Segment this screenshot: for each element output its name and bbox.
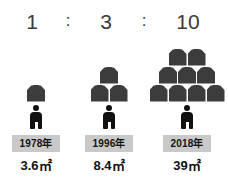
person-leg-left xyxy=(181,120,186,129)
pictogram-column-1978: 1978年 3.6㎡ xyxy=(0,36,72,180)
house-row xyxy=(100,66,119,84)
house-row xyxy=(149,84,225,102)
house-icon xyxy=(159,67,177,84)
year-badge-2018: 2018年 xyxy=(163,135,210,152)
person-head xyxy=(106,105,112,111)
area-value-1978: 3.6㎡ xyxy=(20,159,51,172)
house-stack-2018 xyxy=(149,48,225,102)
house-icon xyxy=(169,49,187,66)
area-value-2018: 39㎡ xyxy=(173,159,200,172)
house-icon xyxy=(207,85,225,102)
ratio-value-first: 1 xyxy=(9,11,55,32)
year-badge-1996: 1996年 xyxy=(85,135,132,152)
ratio-separator-first: : xyxy=(55,12,81,31)
house-icon xyxy=(197,67,215,84)
house-icon xyxy=(91,85,109,102)
person-leg-right xyxy=(111,120,116,129)
ratio-value-third: 10 xyxy=(157,11,219,32)
person-icon xyxy=(102,105,116,129)
house-stack-1978 xyxy=(27,84,46,102)
person-head xyxy=(33,105,39,111)
person-icon xyxy=(180,105,194,129)
house-stack-1996 xyxy=(90,66,128,102)
ratio-separator-second: : xyxy=(131,12,157,31)
house-icon xyxy=(27,85,45,102)
area-value-1996: 8.4㎡ xyxy=(93,159,124,172)
house-icon xyxy=(169,85,187,102)
house-row xyxy=(27,84,46,102)
house-icon xyxy=(100,67,118,84)
person-icon xyxy=(29,105,43,129)
house-icon xyxy=(188,49,206,66)
person-leg-right xyxy=(189,120,194,129)
house-row xyxy=(168,48,206,66)
ratio-value-second: 3 xyxy=(81,11,131,32)
house-icon xyxy=(110,85,128,102)
ratio-row: 1 : 3 : 10 xyxy=(0,6,228,36)
person-leg-right xyxy=(38,120,43,129)
pictogram-column-1996: 1996年 8.4㎡ xyxy=(72,36,146,180)
pictogram-columns: 1978年 3.6㎡ 1996年 8.4㎡ xyxy=(0,36,228,180)
house-icon xyxy=(188,85,206,102)
house-row xyxy=(159,66,216,84)
year-badge-1978: 1978年 xyxy=(12,135,59,152)
person-head xyxy=(184,105,190,111)
house-row xyxy=(90,84,128,102)
house-icon xyxy=(178,67,196,84)
person-leg-left xyxy=(103,120,108,129)
person-leg-left xyxy=(30,120,35,129)
house-icon xyxy=(150,85,168,102)
pictogram-column-2018: 2018年 39㎡ xyxy=(146,36,228,180)
